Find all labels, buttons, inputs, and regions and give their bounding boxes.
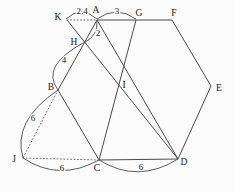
vertex-label-J: J (12, 154, 16, 164)
vertex-label-C: C (94, 163, 100, 173)
measure-label-A-G: 3 (115, 6, 120, 16)
figure-svg: 2.4324666KAGFHBIEJCD (0, 0, 235, 193)
measure-label-A-H: 2 (96, 28, 101, 38)
vertex-label-D: D (181, 157, 188, 167)
geometry-figure: 2.4324666KAGFHBIEJCD (0, 0, 235, 193)
vertex-label-A: A (93, 5, 100, 15)
vertex-label-G: G (136, 8, 143, 18)
vertex-label-H: H (71, 37, 78, 47)
measure-label-H-B: 4 (62, 55, 67, 65)
measure-label-B-J: 6 (31, 113, 36, 123)
measure-label-J-C: 6 (60, 163, 65, 173)
measure-label-C-D: 6 (139, 162, 144, 172)
vertex-label-E: E (216, 83, 222, 93)
vertex-label-K: K (55, 12, 62, 22)
measure-label-K-A: 2.4 (76, 6, 88, 16)
vertex-label-F: F (171, 8, 176, 18)
figure-background (0, 0, 235, 193)
vertex-label-I: I (122, 80, 125, 90)
vertex-label-B: B (48, 82, 54, 92)
